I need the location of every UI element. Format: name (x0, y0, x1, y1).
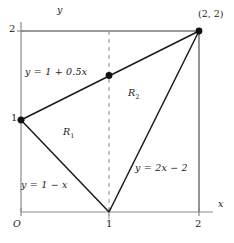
x-axis-label: x (218, 199, 223, 209)
region-r2-sub: 2 (135, 93, 139, 101)
region-r1-sub: 1 (70, 132, 74, 140)
line-label-upper: y = 1 + 0.5x (25, 67, 87, 77)
x-tick-label-1: 1 (106, 219, 112, 229)
line-y-eq-2x-minus-2 (109, 31, 199, 212)
y-tick-label-2: 2 (9, 24, 15, 34)
line-label-lower-right: y = 2x − 2 (135, 163, 188, 173)
origin-label: O (13, 219, 21, 229)
point-2-2-dot (196, 28, 203, 35)
point-1-1p5-dot (106, 72, 113, 79)
y-axis-label: y (57, 5, 62, 15)
region-r2-label: R2 (128, 88, 139, 100)
x-tick-label-2: 2 (195, 219, 201, 229)
y-tick-label-1: 1 (11, 113, 17, 123)
line-label-lower-left: y = 1 − x (21, 180, 68, 190)
region-r1-label: R1 (63, 127, 74, 139)
geometry-figure: y x 2 1 1 2 O (2, 2) y = 1 + 0.5x y = 1 … (0, 0, 234, 243)
corner-point-label: (2, 2) (198, 9, 224, 19)
point-0-1-dot (18, 117, 25, 124)
figure-canvas (0, 0, 234, 243)
